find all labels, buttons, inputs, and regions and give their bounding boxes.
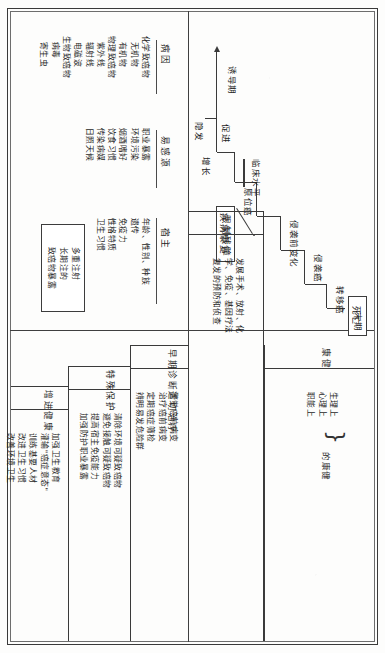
col-header-etiology: 病因 xyxy=(159,44,172,66)
col-rule-exposure xyxy=(156,130,157,188)
health-promotion-left-rule xyxy=(11,386,69,387)
stair-label-terminal: 末期 xyxy=(352,312,363,331)
rehab-frame xyxy=(264,345,374,641)
multiple-exposure-text: 多重注射 长期注的 致癌物暴露 xyxy=(45,247,80,289)
rehab-bottom-rule xyxy=(263,368,264,641)
diagram-canvas: 死亡 疾病康复 诱导期 隐发 促进 增长 原位癌 临床水平 侵袭前变化 侵袭癌 … xyxy=(0,0,385,653)
col-rule-etiology xyxy=(156,40,157,94)
stair-label-growth: 增长 xyxy=(200,157,211,176)
stair-step-4-h xyxy=(280,216,281,250)
col-rule-host xyxy=(156,218,157,304)
rehab-brace-icon: } xyxy=(325,430,347,444)
stair-step-6-h xyxy=(326,284,327,308)
stair-label-preinvasive: 侵袭前变化 xyxy=(288,220,299,268)
stair-step-2-h xyxy=(234,152,235,182)
multiple-exposure-box: 多重注射 长期注的 致癌物暴露 xyxy=(41,224,85,312)
stair-label-clinical-level: 临床水平 xyxy=(250,159,261,197)
special-protection-bottom-rule xyxy=(68,366,69,641)
divider-horizontal-main xyxy=(188,11,189,642)
stair-step-5-h xyxy=(304,250,305,284)
stair-riser-2 xyxy=(217,152,235,153)
col-items-exposure: 职业暴露 环境污染 烟酒嗜好 饮食习惯 传染病媒 日照天候 xyxy=(83,128,151,162)
rehab-suffix: 的康健 xyxy=(320,452,331,481)
stair-label-metastatic: 转移癌 xyxy=(334,286,345,315)
clinical-level-rule xyxy=(243,159,245,187)
early-dx-items: 警觉癌前病变 治疗癌前病变 定期癌症筛检 辨明易发危险群 xyxy=(134,392,179,451)
col-header-exposure: 易感源 xyxy=(159,136,172,169)
stair-label-invasive: 侵袭癌 xyxy=(312,254,323,283)
divider-vertical-lower xyxy=(10,330,189,331)
stair-label-induction: 诱导期 xyxy=(226,66,237,95)
rehab-items: 生理上 心理上 职能上 xyxy=(305,392,339,417)
special-protection-title: 特殊保护 xyxy=(105,370,117,412)
col-items-host: 年龄、性别、种族 遗传 免疫力 性格特质 卫生习惯 xyxy=(95,218,151,285)
induction-arrow-head xyxy=(214,46,220,52)
limit-disability-title: 限制残障 xyxy=(221,215,233,257)
stair-riser-4 xyxy=(257,216,281,217)
special-protection-items: 清除环境可疑致癌物 避免接触可疑致癌物 提高宿主免疫能力 加强防护职业暴露 xyxy=(78,413,123,489)
special-protection-left-rule xyxy=(69,366,131,367)
stair-label-promotion: 促进 xyxy=(220,124,231,143)
rehab-divider xyxy=(264,368,374,369)
page-frame: 死亡 疾病康复 诱导期 隐发 促进 增长 原位癌 临床水平 侵袭前变化 侵袭癌 … xyxy=(0,0,385,653)
limit-disability-left-rule xyxy=(189,211,264,212)
stair-step-1-h xyxy=(216,118,217,152)
early-dx-left-rule xyxy=(131,345,189,346)
col-header-host: 宿主 xyxy=(159,228,172,250)
early-dx-inner-rule xyxy=(131,368,189,369)
stair-riser-6 xyxy=(305,284,327,285)
rehab-title: 康健 xyxy=(321,348,333,369)
health-promotion-items: 加强卫生教育 灌输"癌症意态" 训练基要人材 改进卫生习惯 改善环境卫生 xyxy=(5,433,61,491)
limit-disability-items: 发展手术、放射、化 学、免疫、基因疗法 复发的预防和侦查 xyxy=(211,258,245,334)
col-items-etiology: 化学致癌物 无机物 有机物 物理致癌物 紫外线 辐射线 电磁波 生物致癌物 病毒… xyxy=(38,36,151,78)
health-promotion-title: 增进健康 xyxy=(43,390,55,432)
health-promotion-inner-rule xyxy=(11,409,69,410)
induction-arrow-line xyxy=(216,50,217,118)
stair-label-onset: 隐发 xyxy=(193,122,204,141)
stair-step-1-v xyxy=(205,118,217,119)
special-protection-inner-rule xyxy=(69,389,131,390)
